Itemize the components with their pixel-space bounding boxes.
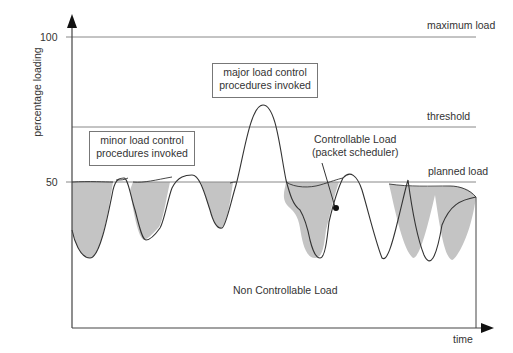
major-box-line-2: procedures invoked	[217, 79, 313, 92]
tick-100: 100	[40, 31, 58, 43]
controllable-load-fill	[72, 182, 476, 260]
x-axis-arrow-icon	[481, 323, 494, 333]
planned-load-label: planned load	[428, 165, 488, 177]
minor-box-line-1: minor load control	[94, 134, 190, 147]
y-axis-label: percentage loading	[31, 47, 43, 137]
non-controllable-load-label: Non Controllable Load	[233, 284, 338, 296]
controllable-line-2: (packet scheduler)	[312, 146, 398, 159]
major-control-box: major load control procedures invoked	[212, 63, 318, 98]
controllable-load-label: Controllable Load (packet scheduler)	[312, 133, 398, 159]
maximum-load-label: maximum load	[427, 19, 495, 31]
tick-50: 50	[46, 176, 58, 188]
controllable-line-1: Controllable Load	[312, 133, 398, 146]
y-axis-arrow-icon	[67, 14, 77, 28]
minor-box-line-2: procedures invoked	[94, 147, 190, 160]
minor-control-box: minor load control procedures invoked	[89, 131, 195, 166]
threshold-label: threshold	[427, 110, 470, 122]
controllable-load-dot	[333, 205, 339, 211]
major-box-line-1: major load control	[217, 66, 313, 79]
x-axis-label: time	[453, 333, 473, 345]
